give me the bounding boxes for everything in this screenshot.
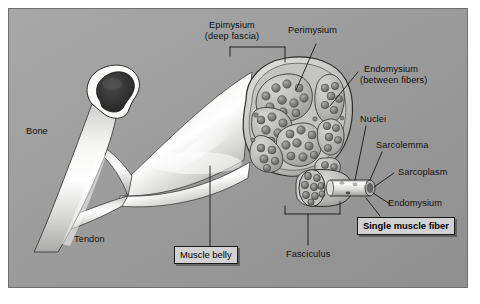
label-tendon: Tendon bbox=[74, 234, 105, 245]
label-box-muscle-belly: Muscle belly bbox=[174, 246, 238, 264]
label-nuclei: Nuclei bbox=[360, 114, 386, 125]
label-sarcolemma: Sarcolemma bbox=[376, 140, 429, 151]
label-perimysium: Perimysium bbox=[288, 25, 337, 36]
label-endomysium-top-line1: Endomysium bbox=[364, 64, 418, 75]
label-endomysium-right: Endomysium bbox=[388, 198, 442, 209]
fasciculus-group bbox=[317, 119, 344, 155]
single-muscle-fiber-shape bbox=[326, 180, 375, 196]
label-epimysium-line1: Epimysium bbox=[199, 20, 265, 31]
sarcoplasm-core bbox=[367, 183, 372, 192]
diagram-canvas bbox=[0, 0, 480, 304]
label-endomysium-top-line2: (between fibers) bbox=[360, 75, 427, 86]
fasciculus-group bbox=[315, 74, 345, 122]
muscle-anatomy-figure: Bone Tendon Epimysium (deep fascia) Peri… bbox=[0, 0, 480, 304]
muscle-cross-section bbox=[243, 57, 352, 178]
label-sarcoplasm: Sarcoplasm bbox=[398, 167, 447, 178]
label-bone: Bone bbox=[26, 126, 48, 137]
label-fasciculus: Fasciculus bbox=[286, 249, 330, 260]
label-box-single-muscle-fiber: Single muscle fiber bbox=[357, 217, 455, 235]
label-epimysium-line2: (deep fascia) bbox=[193, 31, 271, 42]
